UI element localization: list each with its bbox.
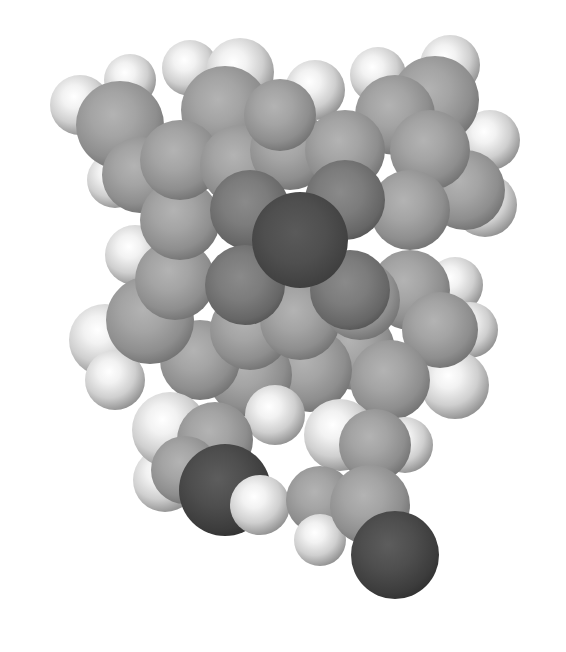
oxygen-atom <box>351 511 439 599</box>
carbon-atom <box>244 79 316 151</box>
hydrogen-atom <box>245 385 305 445</box>
hydrogen-atom <box>230 475 290 535</box>
molecule-render <box>0 0 566 652</box>
metal-atom <box>252 192 348 288</box>
